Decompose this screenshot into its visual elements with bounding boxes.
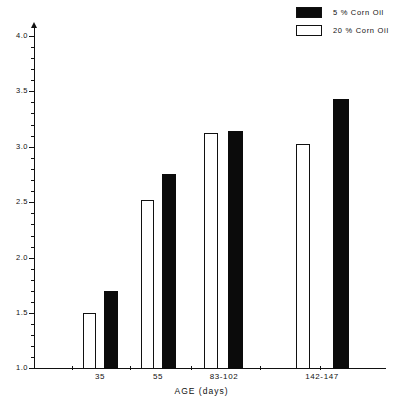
y-tick-minor (31, 224, 35, 225)
y-axis-line (34, 26, 35, 369)
y-tick-minor (31, 125, 35, 126)
y-tick-minor (31, 158, 35, 159)
y-tick-major (29, 258, 35, 259)
y-tick-label-wrap: 1.0 (0, 363, 28, 373)
y-tick-label: 1.5 (4, 308, 28, 317)
y-tick-major (29, 313, 35, 314)
y-tick-label-wrap: 3.0 (0, 142, 28, 152)
y-tick-label: 3.0 (4, 142, 28, 151)
y-tick-label-wrap: 4.0 (0, 31, 28, 41)
y-tick-label-wrap: 3.5 (0, 86, 28, 96)
y-tick-minor (31, 280, 35, 281)
y-tick-major (29, 147, 35, 148)
x-tick (130, 366, 131, 370)
x-tick (320, 366, 321, 370)
y-tick-minor (31, 357, 35, 358)
y-tick-minor (31, 113, 35, 114)
x-tick (260, 366, 261, 370)
y-tick-minor (31, 102, 35, 103)
x-group-label-142-147: 142-147 (290, 372, 354, 381)
bar-5pct-142-147 (333, 99, 349, 369)
plot-area: 4.0 3.5 3.0 2.5 2.0 1.5 1.0 (0, 0, 403, 403)
y-tick-minor (31, 180, 35, 181)
bar-5pct-35 (104, 291, 118, 369)
y-tick-label: 1.0 (4, 363, 28, 372)
y-tick-label-wrap: 1.5 (0, 308, 28, 318)
x-group-label-83-102: 83-102 (192, 372, 256, 381)
x-group-label-35: 35 (70, 372, 130, 381)
y-tick-minor (31, 236, 35, 237)
x-tick (191, 366, 192, 370)
y-tick-minor (31, 291, 35, 292)
bar-20pct-83-102 (204, 133, 218, 369)
y-tick-label: 4.0 (4, 31, 28, 40)
y-tick-major (29, 202, 35, 203)
y-tick-minor (31, 247, 35, 248)
bar-5pct-55 (162, 174, 176, 369)
y-tick-minor (31, 213, 35, 214)
y-tick-minor (31, 269, 35, 270)
y-tick-label: 2.0 (4, 253, 28, 262)
x-tick (72, 366, 73, 370)
y-tick-minor (31, 324, 35, 325)
y-tick-minor (31, 80, 35, 81)
y-tick-minor (31, 47, 35, 48)
y-tick-major (29, 36, 35, 37)
y-tick-minor (31, 335, 35, 336)
y-tick-minor (31, 302, 35, 303)
y-tick-minor (31, 136, 35, 137)
y-tick-major (29, 368, 35, 369)
y-tick-minor (31, 69, 35, 70)
y-tick-minor (31, 191, 35, 192)
x-axis-title: AGE (days) (0, 386, 403, 396)
y-tick-major (29, 91, 35, 92)
bar-20pct-55 (141, 200, 154, 369)
bar-5pct-83-102 (228, 131, 243, 369)
y-tick-label-wrap: 2.5 (0, 197, 28, 207)
y-tick-label: 2.5 (4, 197, 28, 206)
y-tick-minor (31, 58, 35, 59)
y-tick-minor (31, 346, 35, 347)
x-group-label-55: 55 (128, 372, 188, 381)
bar-20pct-142-147 (296, 144, 310, 369)
y-tick-label-wrap: 2.0 (0, 253, 28, 263)
bar-20pct-35 (83, 313, 96, 369)
y-tick-minor (31, 169, 35, 170)
y-tick-label: 3.5 (4, 86, 28, 95)
bar-chart-figure: 5 % Corn Oil 20 % Corn Oil 4.0 3.5 3.0 2… (0, 0, 403, 403)
